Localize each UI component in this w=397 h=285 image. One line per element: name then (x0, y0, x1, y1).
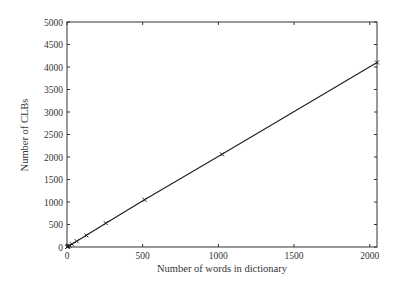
y-tick-label: 500 (49, 220, 64, 230)
x-tick-label: 1000 (209, 251, 228, 261)
y-tick-label: 1500 (44, 175, 63, 185)
data-point-marker (104, 221, 108, 225)
y-tick-label: 4500 (44, 40, 63, 50)
line-chart: 0500100015002000250030003500400045005000… (0, 0, 397, 285)
y-tick-label: 4000 (44, 63, 63, 73)
x-axis-label: Number of words in dictionary (157, 263, 288, 274)
data-point-marker (143, 198, 147, 202)
x-tick-label: 0 (65, 251, 70, 261)
x-axis-ticks: 0500100015002000 (65, 22, 380, 261)
data-point-marker (220, 152, 224, 156)
x-tick-label: 1500 (285, 251, 304, 261)
data-point-marker (75, 239, 79, 243)
y-tick-label: 1000 (44, 198, 63, 208)
y-axis-ticks: 0500100015002000250030003500400045005000 (44, 18, 377, 253)
data-series (65, 61, 379, 249)
plot-frame (67, 22, 377, 247)
y-tick-label: 3000 (44, 108, 63, 118)
plot-area-border (67, 22, 377, 247)
y-tick-label: 0 (58, 243, 63, 253)
x-tick-label: 500 (136, 251, 151, 261)
x-tick-label: 2000 (360, 251, 379, 261)
y-tick-label: 3500 (44, 85, 63, 95)
data-point-marker (84, 233, 88, 237)
y-tick-label: 2000 (44, 153, 63, 163)
y-axis-label: Number of CLBs (19, 99, 30, 172)
y-tick-label: 5000 (44, 18, 63, 28)
y-tick-label: 2500 (44, 130, 63, 140)
